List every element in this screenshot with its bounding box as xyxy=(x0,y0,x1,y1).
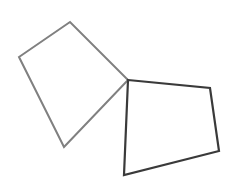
gray-quadrilateral xyxy=(19,22,128,147)
dark-quadrilateral xyxy=(124,80,219,175)
diagram-canvas xyxy=(0,0,243,183)
